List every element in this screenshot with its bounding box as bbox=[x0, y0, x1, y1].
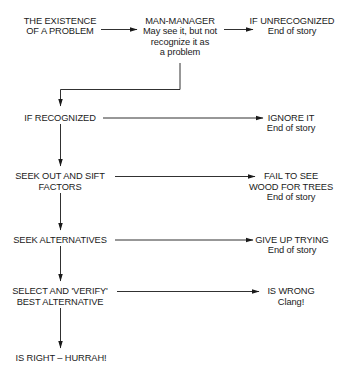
node-give-up-trying: GIVE UP TRYING End of story bbox=[240, 235, 344, 256]
node-line: End of story bbox=[242, 26, 342, 37]
node-line: FAIL TO SEE bbox=[238, 171, 344, 182]
node-existence-of-problem: THE EXISTENCE OF A PROBLEM bbox=[10, 16, 110, 37]
node-line: IGNORE IT bbox=[241, 113, 341, 124]
node-line: WOOD FOR TREES bbox=[238, 182, 344, 193]
arrow-manager-to-recognized bbox=[61, 63, 181, 106]
node-man-manager: MAN-MANAGER May see it, but not recogniz… bbox=[130, 16, 230, 58]
node-line: SELECT AND 'VERIFY' bbox=[7, 286, 113, 297]
node-line: End of story bbox=[238, 192, 344, 203]
node-line: MAN-MANAGER bbox=[130, 16, 230, 27]
node-line: recognize it as bbox=[130, 37, 230, 48]
node-line: SEEK ALTERNATIVES bbox=[10, 235, 110, 246]
node-fail-to-see: FAIL TO SEE WOOD FOR TREES End of story bbox=[238, 171, 344, 203]
node-if-recognized: IF RECOGNIZED bbox=[10, 113, 110, 124]
node-is-right: IS RIGHT – HURRAH! bbox=[8, 353, 114, 364]
node-select-verify: SELECT AND 'VERIFY' BEST ALTERNATIVE bbox=[7, 286, 113, 307]
node-if-unrecognized: IF UNRECOGNIZED End of story bbox=[242, 16, 342, 37]
node-line: IS WRONG bbox=[241, 286, 341, 297]
node-line: GIVE UP TRYING bbox=[240, 235, 344, 246]
node-seek-alternatives: SEEK ALTERNATIVES bbox=[10, 235, 110, 246]
node-line: FACTORS bbox=[10, 182, 110, 193]
node-line: a problem bbox=[130, 47, 230, 58]
node-ignore-it: IGNORE IT End of story bbox=[241, 113, 341, 134]
node-line: End of story bbox=[240, 245, 344, 256]
node-line: IF UNRECOGNIZED bbox=[242, 16, 342, 27]
node-line: IS RIGHT – HURRAH! bbox=[8, 353, 114, 364]
node-line: OF A PROBLEM bbox=[10, 26, 110, 37]
node-seek-out-sift-factors: SEEK OUT AND SIFT FACTORS bbox=[10, 171, 110, 192]
node-line: BEST ALTERNATIVE bbox=[7, 297, 113, 308]
node-line: IF RECOGNIZED bbox=[10, 113, 110, 124]
node-line: Clang! bbox=[241, 297, 341, 308]
node-line: THE EXISTENCE bbox=[10, 16, 110, 27]
node-line: SEEK OUT AND SIFT bbox=[10, 171, 110, 182]
node-line: End of story bbox=[241, 123, 341, 134]
node-line: May see it, but not bbox=[130, 26, 230, 37]
node-is-wrong: IS WRONG Clang! bbox=[241, 286, 341, 307]
